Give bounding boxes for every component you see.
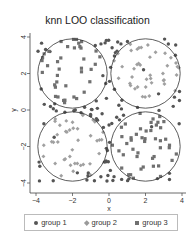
svg-text:2: 2: [144, 197, 148, 204]
legend: group 1 group 2 group 3: [24, 214, 178, 231]
svg-text:y: y: [10, 108, 18, 112]
svg-text:−2: −2: [20, 142, 27, 150]
svg-text:−4: −4: [20, 179, 27, 187]
svg-text:−2: −2: [69, 197, 77, 204]
svg-text:2: 2: [20, 71, 27, 75]
svg-text:4: 4: [20, 35, 27, 39]
legend-item-group-1: group 1: [34, 218, 66, 227]
legend-label: group 1: [41, 218, 66, 227]
legend-label: group 3: [142, 218, 167, 227]
svg-text:4: 4: [180, 197, 184, 204]
circle-marker-icon: [34, 221, 38, 225]
svg-text:0: 0: [20, 108, 27, 112]
svg-text:x: x: [107, 205, 111, 212]
data-points: [36, 37, 181, 182]
legend-label: group 2: [92, 218, 117, 227]
svg-text:−4: −4: [32, 197, 40, 204]
diamond-marker-icon: [84, 220, 89, 225]
scatter-plot: −4−2024−4−2024xy: [0, 0, 195, 212]
legend-item-group-2: group 2: [85, 218, 117, 227]
svg-text:0: 0: [107, 197, 111, 204]
legend-item-group-3: group 3: [135, 218, 167, 227]
square-marker-icon: [135, 221, 139, 225]
